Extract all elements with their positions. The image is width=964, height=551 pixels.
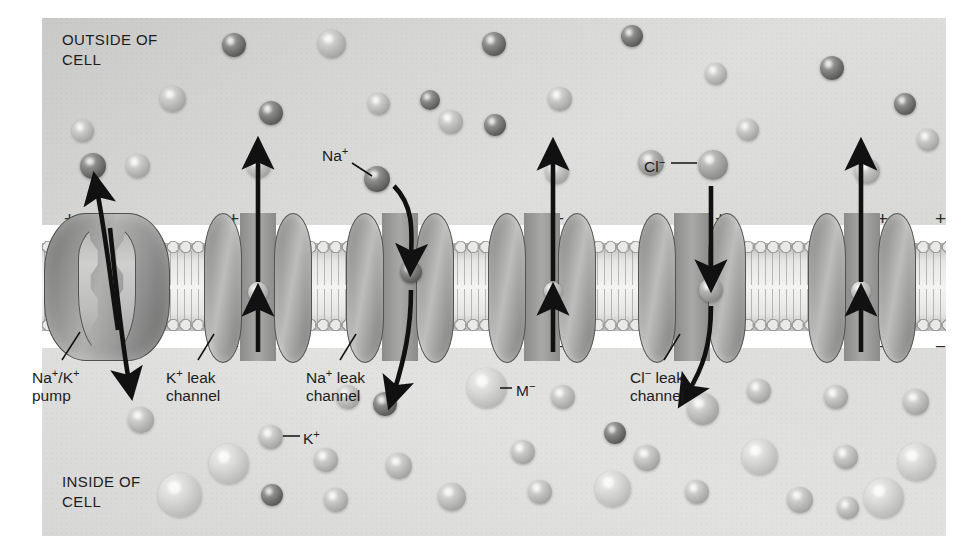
na-k-pump-label: Na+/K+pump [32,367,80,405]
pump-label-leader [62,332,80,360]
na-leak-leader [340,334,356,360]
k-leak-channel-1-label: K+ leakchannel [166,367,220,405]
na-leak-in-arrow-lower [394,290,411,392]
cl-leak-leader [664,334,680,360]
k-leak-1-leader [198,334,214,360]
k-callout: K+ [303,429,320,446]
na-callout-leader [352,163,372,176]
na-callout: Na+ [322,146,348,163]
transport-arrow-layer [0,0,964,551]
inside-of-cell-label: INSIDE OF CELL [62,472,141,513]
cl-leak-in-arrow-lower [688,306,711,392]
cl-callout: Cl− [644,157,665,174]
m-callout: M− [516,381,535,398]
cl-leak-channel-label: Cl− leakchannel [630,367,684,405]
na-leak-in-arrow-upper [394,186,412,258]
outside-of-cell-label: OUTSIDE OF CELL [62,30,158,71]
membrane-transport-diagram: +−+−+−+−+−+−+− [0,0,964,551]
na-leak-channel-label: Na+ leakchannel [306,367,365,405]
